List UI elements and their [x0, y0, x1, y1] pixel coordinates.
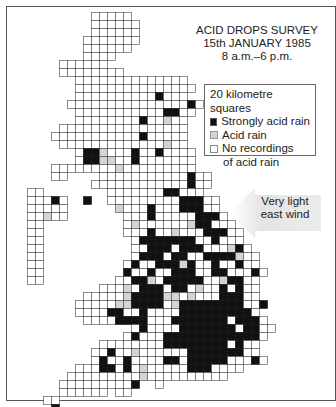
grid-square [252, 253, 260, 261]
grid-square [172, 357, 180, 365]
grid-square [84, 157, 92, 165]
grid-square [188, 197, 196, 205]
grid-square [92, 101, 100, 109]
grid-square [140, 125, 148, 133]
grid-square [196, 261, 204, 269]
grid-square [92, 61, 100, 69]
grid-square [172, 149, 180, 157]
grid-square [132, 181, 140, 189]
grid-square [172, 85, 180, 93]
grid-square [124, 189, 132, 197]
grid-square [148, 221, 156, 229]
grid-square [188, 157, 196, 165]
grid-square [204, 325, 212, 333]
legend-item-no-recordings: No recordings [210, 142, 310, 156]
grid-square [108, 37, 116, 45]
grid-square [180, 125, 188, 133]
grid-square [44, 213, 52, 221]
grid-square [124, 37, 132, 45]
grid-square [140, 133, 148, 141]
grid-square [220, 237, 228, 245]
grid-square [92, 109, 100, 117]
grid-square [156, 309, 164, 317]
grid-square [116, 13, 124, 21]
grid-square [156, 125, 164, 133]
grid-square [84, 85, 92, 93]
grid-square [204, 277, 212, 285]
grid-square [108, 173, 116, 181]
grid-square [236, 293, 244, 301]
grid-square [164, 93, 172, 101]
grid-square [68, 141, 76, 149]
grid-square [212, 349, 220, 357]
grid-square [180, 333, 188, 341]
grid-square [140, 205, 148, 213]
grid-square [196, 205, 204, 213]
grid-square [260, 333, 268, 341]
grid-square [172, 213, 180, 221]
grid-square [236, 349, 244, 357]
grid-square [124, 157, 132, 165]
grid-square [60, 389, 68, 397]
grid-square [204, 373, 212, 381]
grid-square [140, 221, 148, 229]
grid-square [172, 173, 180, 181]
grid-square [164, 365, 172, 373]
legend-item-acid: Acid rain [210, 129, 310, 143]
grid-square [180, 93, 188, 101]
grid-square [84, 165, 92, 173]
grid-square [28, 197, 36, 205]
grid-square [76, 133, 84, 141]
grid-square [196, 293, 204, 301]
grid-square [140, 77, 148, 85]
grid-square [244, 253, 252, 261]
grid-square [228, 245, 236, 253]
grid-square [140, 341, 148, 349]
grid-square [204, 205, 212, 213]
grid-square [180, 277, 188, 285]
grid-square [140, 269, 148, 277]
grid-square [148, 133, 156, 141]
grid-square [132, 277, 140, 285]
grid-square [148, 181, 156, 189]
grid-square [172, 77, 180, 85]
grid-square [36, 189, 44, 197]
grid-square [212, 213, 220, 221]
grid-square [132, 125, 140, 133]
grid-square [84, 37, 92, 45]
grid-square [84, 365, 92, 373]
grid-square [76, 101, 84, 109]
grid-square [180, 77, 188, 85]
grid-square [124, 341, 132, 349]
grid-square [100, 381, 108, 389]
grid-square [228, 317, 236, 325]
grid-square [148, 189, 156, 197]
grid-square [84, 293, 92, 301]
legend-label: No recordings [222, 142, 294, 156]
grid-square [140, 85, 148, 93]
grid-square [148, 173, 156, 181]
grid-square [204, 317, 212, 325]
legend-heading: 20 kilometre squares [210, 88, 310, 115]
grid-square [212, 277, 220, 285]
grid-square [148, 245, 156, 253]
grid-square [124, 365, 132, 373]
grid-square [244, 317, 252, 325]
grid-square [92, 93, 100, 101]
legend-label: Acid rain [222, 129, 267, 143]
grid-square [68, 165, 76, 173]
grid-square [84, 373, 92, 381]
grid-square [164, 133, 172, 141]
grid-square [212, 197, 220, 205]
grid-square [132, 29, 140, 37]
grid-square [68, 69, 76, 77]
grid-square [156, 373, 164, 381]
grid-square [140, 293, 148, 301]
grid-square [124, 117, 132, 125]
grid-square [172, 261, 180, 269]
grid-square [220, 213, 228, 221]
grid-square [132, 221, 140, 229]
wind-line-1: Very light [252, 195, 318, 208]
grid-square [76, 77, 84, 85]
grid-square [164, 293, 172, 301]
